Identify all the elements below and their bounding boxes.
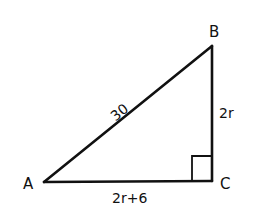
side-label-ac: 2r+6 <box>112 190 147 206</box>
vertex-label-c: C <box>220 175 230 193</box>
side-ac <box>44 181 212 182</box>
side-label-ab: 30 <box>107 100 131 124</box>
right-triangle-diagram: B A C 30 2r 2r+6 <box>0 0 254 214</box>
vertex-label-b: B <box>209 23 219 41</box>
side-label-bc: 2r <box>219 105 234 121</box>
vertex-label-a: A <box>23 175 34 193</box>
right-angle-marker <box>192 156 212 181</box>
